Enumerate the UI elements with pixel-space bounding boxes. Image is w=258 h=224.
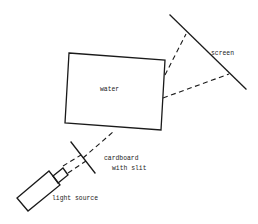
label-light-source: light source <box>52 195 98 202</box>
light-source-nozzle <box>53 168 68 183</box>
screen <box>170 15 246 89</box>
cardboard <box>71 142 95 173</box>
beam-edge-lower <box>68 161 86 173</box>
label-with-slit: with slit <box>112 165 147 172</box>
label-water: water <box>100 86 119 93</box>
beam-edge-upper <box>63 155 81 166</box>
label-screen: screen <box>211 50 234 57</box>
refraction-diagram: water screen cardboard with slit light s… <box>0 0 258 224</box>
ray-lower <box>163 74 229 98</box>
ray-upper <box>165 34 186 75</box>
label-cardboard: cardboard <box>104 155 139 162</box>
